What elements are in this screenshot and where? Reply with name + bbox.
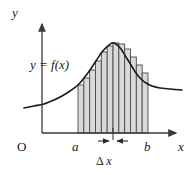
riemann-rectangle (90, 70, 96, 133)
y-axis-label: y (12, 6, 18, 19)
delta-x-label: Δ x (96, 155, 111, 167)
figure-canvas (0, 0, 194, 175)
upper-limit-label: b (144, 140, 151, 153)
riemann-rectangle (119, 44, 125, 133)
riemann-sum-figure: y x O a b y = f(x) Δ x (0, 0, 194, 175)
riemann-rectangle (107, 46, 113, 133)
function-label: y = f(x) (30, 58, 69, 71)
origin-label: O (17, 140, 26, 153)
delta-symbol: Δ (96, 154, 104, 168)
riemann-rectangles (78, 43, 148, 133)
riemann-rectangle (101, 52, 107, 133)
riemann-rectangle (78, 85, 84, 133)
riemann-rectangle (96, 61, 102, 133)
riemann-rectangle (84, 78, 90, 133)
riemann-rectangle (113, 43, 119, 133)
delta-x-variable: x (106, 154, 111, 168)
lower-limit-label: a (72, 140, 79, 153)
x-axis-label: x (178, 140, 184, 153)
